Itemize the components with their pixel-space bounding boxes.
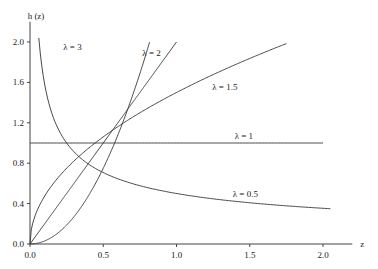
hazard-chart: 0.00.51.01.52.00.00.40.81.21.62.0h (z)z … — [0, 0, 378, 269]
y-axis-label: h (z) — [28, 11, 45, 21]
y-tick-label: 0.8 — [13, 158, 25, 168]
curves — [30, 38, 330, 244]
x-tick-label: 1.5 — [244, 250, 256, 260]
curve-label: λ = 1 — [235, 131, 253, 141]
x-axis-label: z — [360, 239, 364, 249]
curve-label: λ = 3 — [63, 42, 82, 52]
y-tick-label: 2.0 — [13, 37, 25, 47]
y-tick-label: 1.6 — [13, 77, 25, 87]
y-tick-label: 0.4 — [13, 199, 25, 209]
curve-label: λ = 1.5 — [212, 82, 238, 92]
x-tick-label: 0.5 — [98, 250, 110, 260]
curve-label: λ = 0.5 — [233, 189, 259, 199]
x-tick-label: 1.0 — [171, 250, 183, 260]
curve-lambda-0-5 — [39, 38, 331, 209]
curve-lambda-1-5 — [30, 44, 286, 244]
curve-labels: λ = 3λ = 2λ = 1.5λ = 1λ = 0.5 — [63, 42, 258, 198]
x-tick-label: 2.0 — [317, 250, 329, 260]
y-tick-label: 1.2 — [13, 118, 24, 128]
curve-label: λ = 2 — [142, 48, 160, 58]
x-tick-label: 0.0 — [24, 250, 36, 260]
y-tick-label: 0.0 — [13, 239, 25, 249]
